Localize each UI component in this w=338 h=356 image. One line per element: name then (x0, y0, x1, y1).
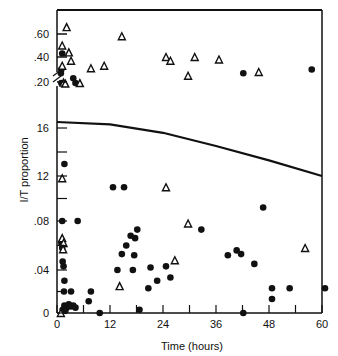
data-point-circle (74, 218, 81, 225)
data-point-circle (88, 288, 95, 295)
y-tick-label: .40 (34, 51, 49, 63)
data-point-triangle (118, 33, 125, 40)
data-point-circle (225, 252, 232, 259)
x-tick-label: 60 (316, 318, 328, 330)
data-point-circle (132, 235, 139, 242)
data-point-triangle (68, 57, 75, 64)
data-point-triangle (185, 72, 192, 79)
data-point-triangle (163, 54, 170, 61)
data-point-circle (286, 285, 293, 292)
data-point-circle (131, 252, 138, 259)
data-point-circle (61, 277, 68, 284)
y-tick-label: .20 (34, 76, 49, 88)
y-tick-label: 0 (43, 307, 49, 319)
data-point-triangle (101, 62, 108, 69)
data-point-circle (60, 263, 67, 270)
data-point-circle (163, 263, 170, 270)
data-point-circle (238, 251, 245, 258)
data-point-circle (68, 288, 75, 295)
data-point-circle (136, 306, 143, 313)
data-point-triangle (191, 54, 198, 61)
data-point-triangle (116, 283, 123, 290)
data-point-triangle (171, 257, 178, 264)
data-point-circle (134, 226, 141, 233)
data-point-circle (240, 310, 247, 317)
data-point-triangle (65, 49, 72, 56)
data-point-circle (145, 285, 152, 292)
fitted-curve (57, 122, 322, 176)
data-point-circle (130, 267, 137, 274)
data-point-circle (121, 184, 128, 191)
data-point-circle (167, 274, 174, 281)
scatter-chart: 012243648600.04.081216.20.40.60 Time (ho… (0, 0, 338, 356)
y-axis-title: I/T proportion (18, 137, 30, 202)
data-point-triangle (163, 184, 170, 191)
data-point-circle (260, 204, 267, 211)
x-tick-label: 24 (157, 318, 169, 330)
data-point-circle (123, 242, 130, 249)
data-point-circle (72, 304, 79, 311)
data-point-circle (251, 261, 258, 268)
x-axis-title: Time (hours) (161, 340, 223, 352)
data-point-triangle (216, 56, 223, 63)
data-point-circle (147, 264, 154, 271)
plot-frame (53, 10, 322, 313)
data-point-circle (96, 310, 103, 317)
data-point-circle (240, 70, 247, 77)
data-point-triangle (59, 42, 66, 49)
data-point-circle (198, 226, 205, 233)
data-point-circle (59, 50, 66, 57)
data-point-triangle (87, 65, 94, 72)
x-tick-label: 36 (210, 318, 222, 330)
data-point-circle (154, 277, 161, 284)
data-point-circle (61, 161, 68, 168)
data-point-triangle (255, 69, 262, 76)
y-tick-label: .60 (34, 28, 49, 40)
ticks-layer: 012243648600.04.081216.20.40.60 (34, 28, 328, 330)
data-point-circle (85, 298, 92, 305)
y-tick-label: 12 (37, 170, 49, 182)
x-tick-label: 0 (54, 318, 60, 330)
data-point-triangle (302, 244, 309, 251)
data-point-triangle (63, 24, 70, 31)
y-tick-label: .04 (34, 264, 49, 276)
data-point-circle (58, 70, 65, 77)
x-tick-label: 48 (263, 318, 275, 330)
fitted-curve-layer (57, 122, 322, 176)
y-tick-label: .08 (34, 215, 49, 227)
data-point-circle (269, 296, 276, 303)
data-point-circle (110, 184, 117, 191)
data-point-triangle (185, 220, 192, 227)
data-point-circle (322, 285, 329, 292)
data-point-circle (308, 66, 315, 73)
data-point-circle (114, 267, 121, 274)
data-point-circle (269, 285, 276, 292)
y-tick-label: 16 (37, 122, 49, 134)
x-tick-label: 12 (104, 318, 116, 330)
data-point-triangle (59, 62, 66, 69)
data-point-circle (119, 251, 126, 258)
points-layer (57, 24, 328, 317)
